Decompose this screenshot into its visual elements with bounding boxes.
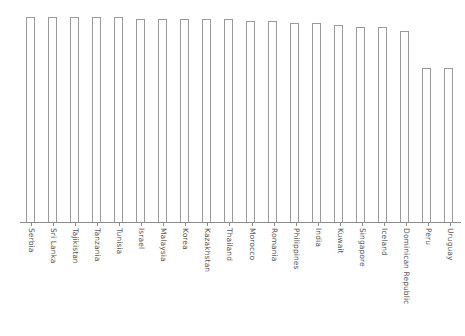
bar-slot	[109, 0, 130, 222]
x-axis-tick	[75, 223, 76, 226]
bar[interactable]	[290, 23, 299, 222]
bar[interactable]	[312, 23, 321, 222]
x-axis-tick	[340, 223, 341, 226]
x-axis-tick-label: Morocco	[247, 228, 256, 260]
bar-slot	[351, 0, 372, 222]
x-axis-tick-label-slot: Israel	[131, 228, 152, 336]
x-axis-tick-label-slot: Romania	[263, 228, 284, 336]
x-axis-tick-label: Serbia	[27, 228, 36, 253]
bar-chart: SerbiaSri LankaTajikistanTanzaniaTunisia…	[0, 0, 465, 336]
x-axis-tick-label: Kazakhstan	[203, 228, 212, 272]
bar[interactable]	[48, 17, 57, 222]
bar[interactable]	[356, 27, 365, 222]
bar-slot	[307, 0, 328, 222]
bar[interactable]	[224, 19, 233, 222]
bar[interactable]	[136, 19, 145, 222]
bar-slot	[175, 0, 196, 222]
x-axis-tick-label-slot: Thailand	[219, 228, 240, 336]
x-axis-tick-label: Tunisia	[115, 228, 124, 254]
bar[interactable]	[400, 31, 409, 222]
bar[interactable]	[70, 17, 79, 222]
x-axis-tick-label-slot: Iceland	[373, 228, 394, 336]
bar-slot	[439, 0, 460, 222]
x-axis-tick	[119, 223, 120, 226]
bar[interactable]	[92, 17, 101, 222]
x-axis-tick-label-slot: Singapore	[351, 228, 372, 336]
x-axis-tick-label-slot: Philippines	[285, 228, 306, 336]
x-axis-tick-label-slot: Morocco	[241, 228, 262, 336]
bar-slot	[417, 0, 438, 222]
x-axis-tick-label-slot: India	[307, 228, 328, 336]
x-axis-tick	[296, 223, 297, 226]
bar[interactable]	[422, 68, 431, 222]
bar[interactable]	[378, 27, 387, 222]
x-axis-tick-label-slot: Tunisia	[109, 228, 130, 336]
bar-slot	[285, 0, 306, 222]
x-axis-tick-label: Tanzania	[93, 228, 102, 261]
bar-slot	[87, 0, 108, 222]
x-axis-tick-label-slot: Dominican Republic	[395, 228, 416, 336]
x-axis-tick-labels: SerbiaSri LankaTajikistanTanzaniaTunisia…	[0, 228, 465, 336]
x-axis-tick	[406, 223, 407, 226]
bar[interactable]	[268, 21, 277, 222]
x-axis-tick-label: Tajikistan	[71, 228, 80, 264]
bar-slot	[219, 0, 240, 222]
bar[interactable]	[246, 21, 255, 222]
x-axis-tick-label: Kuwait	[335, 228, 344, 254]
bar-slot	[131, 0, 152, 222]
x-axis-tick-label: Iceland	[379, 228, 388, 256]
x-axis-tick-label-slot: Sri Lanka	[43, 228, 64, 336]
bar-slot	[373, 0, 394, 222]
plot-area	[0, 0, 465, 222]
bar-slot	[21, 0, 42, 222]
x-axis-tick	[207, 223, 208, 226]
bar-slot	[329, 0, 350, 222]
bar[interactable]	[180, 19, 189, 222]
bar-slot	[43, 0, 64, 222]
x-axis-tick	[384, 223, 385, 226]
bar-slot	[153, 0, 174, 222]
bar[interactable]	[114, 17, 123, 222]
x-axis-tick-label: Thailand	[225, 228, 234, 261]
x-axis-tick-label: Romania	[269, 228, 278, 262]
x-axis-tick	[274, 223, 275, 226]
x-axis-tick-label: Israel	[137, 228, 146, 249]
bar-slot	[395, 0, 416, 222]
bar[interactable]	[158, 19, 167, 222]
bar-slot	[241, 0, 262, 222]
x-axis-tick-label: Korea	[181, 228, 190, 250]
x-axis-tick-label-slot: Malaysia	[153, 228, 174, 336]
bar-slot	[65, 0, 86, 222]
x-axis-tick-label-slot: Kuwait	[329, 228, 350, 336]
x-axis-tick-label: Singapore	[357, 228, 366, 267]
x-axis-tick	[163, 223, 164, 226]
x-axis-tick-label-slot: Korea	[175, 228, 196, 336]
x-axis-tick-label-slot: Kazakhstan	[197, 228, 218, 336]
bar-slot	[263, 0, 284, 222]
bar[interactable]	[444, 68, 453, 222]
bar-slot	[197, 0, 218, 222]
x-axis-tick	[229, 223, 230, 226]
x-axis-tick-label-slot: Peru	[417, 228, 438, 336]
x-axis-tick-label: Uruguay	[445, 228, 454, 261]
x-axis-tick	[31, 223, 32, 226]
x-axis-tick	[362, 223, 363, 226]
x-axis-tick-label-slot: Tanzania	[87, 228, 108, 336]
x-axis-tick	[141, 223, 142, 226]
bar[interactable]	[202, 19, 211, 222]
x-axis-tick-label: Philippines	[291, 228, 300, 270]
bar[interactable]	[334, 25, 343, 222]
x-axis-tick-label: Peru	[423, 228, 432, 245]
x-axis-tick	[97, 223, 98, 226]
x-axis-tick-label-slot: Tajikistan	[65, 228, 86, 336]
x-axis-tick-label: India	[313, 228, 322, 247]
x-axis-tick	[252, 223, 253, 226]
bar[interactable]	[26, 17, 35, 222]
x-axis-tick-label-slot: Uruguay	[439, 228, 460, 336]
x-axis-tick-label: Malaysia	[159, 228, 168, 262]
x-axis-tick-label: Dominican Republic	[401, 228, 410, 304]
x-axis-line	[20, 222, 461, 223]
x-axis-tick-label-slot: Serbia	[21, 228, 42, 336]
x-axis-tick	[53, 223, 54, 226]
x-axis-tick	[318, 223, 319, 226]
